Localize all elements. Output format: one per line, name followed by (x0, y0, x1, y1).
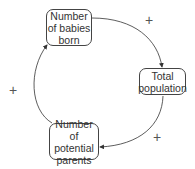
node-label: Number of potential parents (50, 118, 98, 166)
polarity-sign: + (145, 13, 153, 27)
node-potential-parents: Number of potential parents (49, 123, 99, 160)
arrow-parents-to-babies (34, 45, 52, 123)
node-total-population: Total population (139, 68, 186, 95)
node-label: Total population (138, 70, 186, 94)
polarity-sign: + (153, 130, 161, 144)
node-label: Number of babies born (47, 10, 91, 46)
polarity-sign: + (9, 83, 17, 97)
node-babies-born: Number of babies born (46, 9, 92, 46)
